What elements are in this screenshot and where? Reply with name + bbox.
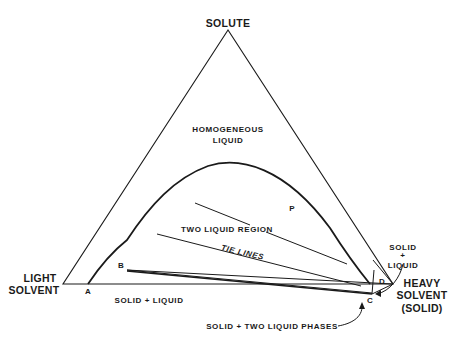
tie-line (127, 270, 372, 293)
tie-line (195, 203, 250, 225)
vertex-heavy-solvent-label: (SOLID) (401, 302, 442, 314)
vertex-light-solvent-label: SOLVENT (9, 284, 60, 296)
region-solid-two-liquid-label: SOLID + TWO LIQUID PHASES (206, 322, 338, 331)
vertex-light-solvent-label: LIGHT (24, 272, 57, 284)
arrowhead-icon (359, 302, 365, 309)
callout-solid-two-liquid-arrow (338, 305, 362, 326)
point-d-label: D (379, 277, 385, 286)
region-solid-liquid-left-label: SOLID + LIQUID (114, 296, 183, 305)
region-two-liquid-label: TWO LIQUID REGION (181, 225, 273, 234)
region-homogeneous-label: HOMOGENEOUS (192, 125, 264, 134)
phase-boundary-bc (127, 271, 372, 294)
annotation-tie-lines: TIE LINES (220, 243, 265, 262)
vertex-heavy-solvent-label: SOLVENT (397, 289, 448, 301)
point-p-label: P (289, 204, 295, 213)
point-a-label: A (85, 287, 91, 296)
point-c-label: C (367, 296, 373, 305)
tie-line (127, 270, 393, 284)
region-solid-liquid-right-label: + (400, 251, 405, 260)
vertex-heavy-solvent-label: HEAVY (404, 277, 441, 289)
region-solid-liquid-right-label: LIQUID (388, 261, 419, 270)
vertex-solute-label: SOLUTE (206, 17, 250, 29)
ternary-phase-diagram: SOLUTE LIGHT SOLVENT HEAVY SOLVENT (SOLI… (0, 0, 458, 346)
region-homogeneous-label: LIQUID (213, 136, 244, 145)
phase-boundary-cd (372, 270, 374, 294)
point-b-label: B (118, 261, 124, 270)
